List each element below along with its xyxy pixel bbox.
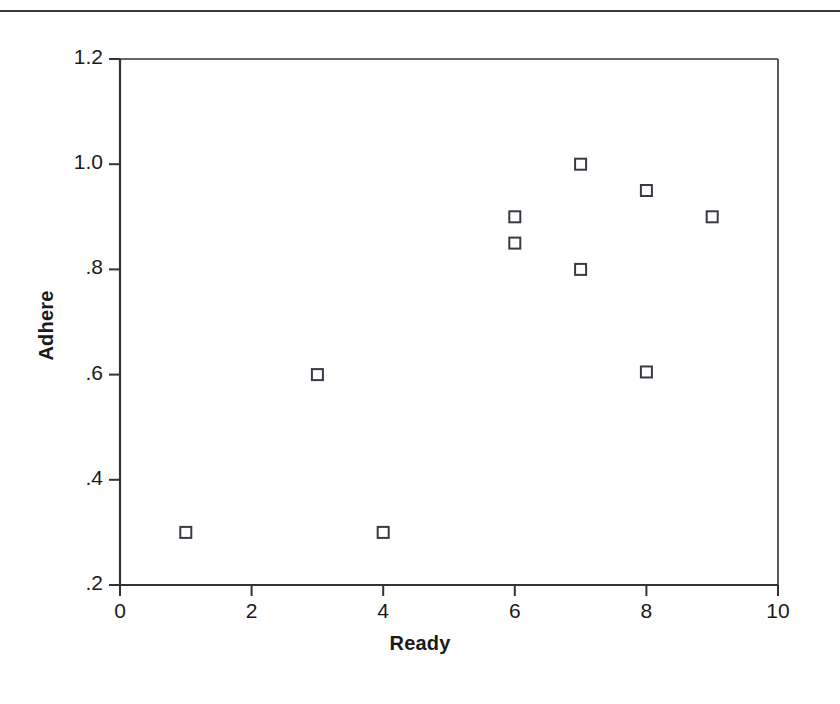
data-point-marker bbox=[378, 527, 389, 538]
data-point-marker bbox=[641, 366, 652, 377]
scatter-plot-figure: .2.4.6.81.01.2 0246810 Adhere Ready bbox=[0, 0, 840, 704]
x-axis-tick-label: 2 bbox=[224, 599, 280, 623]
x-axis-tick-label: 4 bbox=[355, 599, 411, 623]
axis-frame bbox=[120, 59, 778, 585]
x-axis-ticks bbox=[120, 585, 778, 596]
x-axis-tick-label: 10 bbox=[750, 599, 806, 623]
y-axis-tick-label: 1.0 bbox=[33, 150, 103, 174]
y-axis-ticks bbox=[109, 59, 120, 585]
x-axis-tick-label: 6 bbox=[487, 599, 543, 623]
y-axis-title: Adhere bbox=[35, 226, 58, 426]
x-axis-tick-label: 0 bbox=[92, 599, 148, 623]
data-point-marker bbox=[509, 238, 520, 249]
data-point-marker bbox=[312, 369, 323, 380]
x-axis-tick-label: 8 bbox=[618, 599, 674, 623]
data-point-marker bbox=[509, 211, 520, 222]
data-point-marker bbox=[707, 211, 718, 222]
data-point-marker bbox=[575, 159, 586, 170]
x-axis-title: Ready bbox=[0, 632, 840, 655]
y-axis-tick-label: 1.2 bbox=[33, 45, 103, 69]
data-point-marker bbox=[641, 185, 652, 196]
data-point-marker bbox=[575, 264, 586, 275]
y-axis-tick-label: .2 bbox=[33, 571, 103, 595]
figure-page: .2.4.6.81.01.2 0246810 Adhere Ready bbox=[0, 0, 840, 704]
data-point-marker bbox=[180, 527, 191, 538]
y-axis-tick-label: .4 bbox=[33, 466, 103, 490]
data-point-markers bbox=[180, 159, 717, 538]
